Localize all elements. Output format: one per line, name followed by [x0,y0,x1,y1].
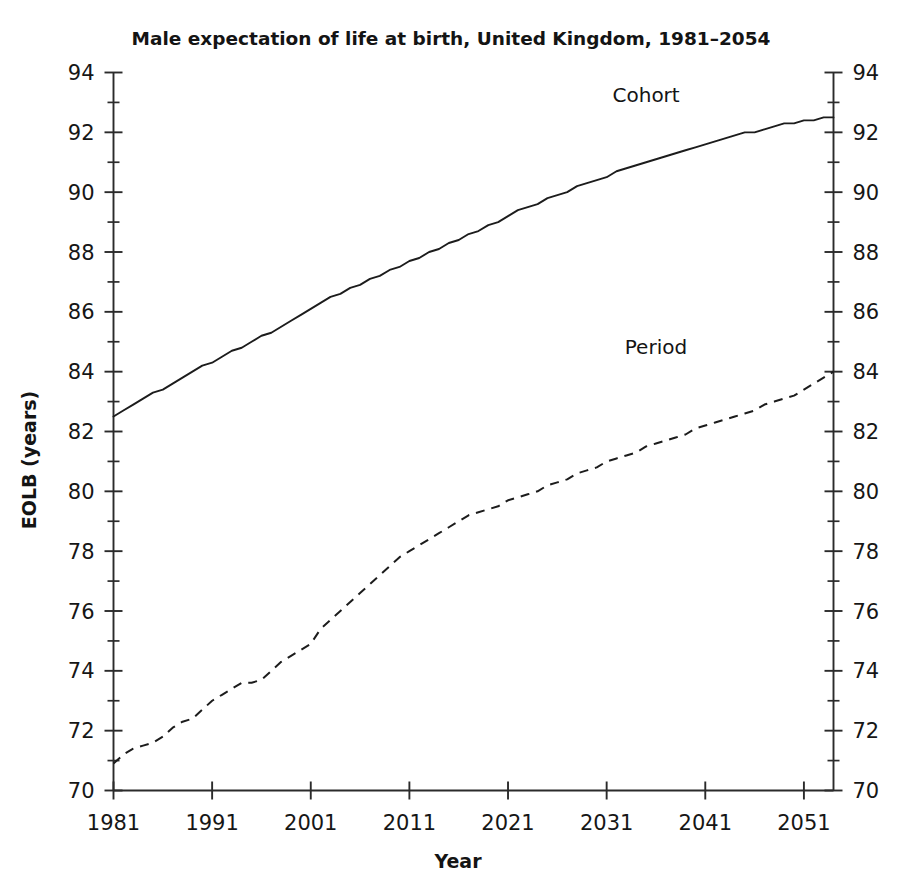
x-tick-label: 2041 [679,811,732,835]
y-tick-label-right: 72 [853,719,880,743]
x-tick-label: 2011 [383,811,436,835]
y-axis-title: EOLB (years) [18,391,40,529]
chart-title: Male expectation of life at birth, Unite… [132,28,771,49]
y-tick-label-left: 72 [68,719,95,743]
x-tick-label: 1991 [185,811,238,835]
y-tick-label-right: 74 [853,659,880,683]
y-tick-label-left: 82 [68,420,95,444]
y-tick-label-right: 90 [853,181,880,205]
y-tick-label-right: 92 [853,121,880,145]
y-tick-label-left: 70 [68,779,95,803]
y-tick-label-right: 94 [853,61,880,85]
y-tick-label-left: 92 [68,121,95,145]
y-tick-label-right: 86 [853,300,880,324]
x-tick-label: 1981 [87,811,140,835]
y-tick-label-right: 78 [853,540,880,564]
y-tick-label-left: 74 [68,659,95,683]
y-tick-label-left: 86 [68,300,95,324]
y-tick-label-left: 78 [68,540,95,564]
chart-figure: Male expectation of life at birth, Unite… [0,0,903,892]
y-tick-label-left: 80 [68,480,95,504]
y-tick-label-left: 88 [68,241,95,265]
y-tick-label-left: 90 [68,181,95,205]
y-tick-label-left: 94 [68,61,95,85]
y-tick-label-right: 84 [853,360,880,384]
line-chart: Male expectation of life at birth, Unite… [0,0,903,892]
x-tick-label: 2001 [284,811,337,835]
y-tick-label-right: 88 [853,241,880,265]
y-tick-label-left: 84 [68,360,95,384]
y-tick-label-right: 76 [853,600,880,624]
y-tick-label-right: 80 [853,480,880,504]
series-label-cohort: Cohort [613,83,680,107]
x-tick-label: 2021 [481,811,534,835]
series-label-period: Period [625,335,687,359]
y-tick-label-right: 70 [853,779,880,803]
chart-background [0,0,903,892]
x-tick-label: 2051 [777,811,830,835]
y-tick-label-right: 82 [853,420,880,444]
x-axis-title: Year [433,850,482,872]
x-tick-label: 2031 [580,811,633,835]
y-tick-label-left: 76 [68,600,95,624]
